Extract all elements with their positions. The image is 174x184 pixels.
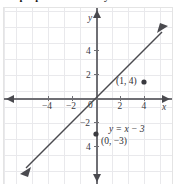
equation-label: y = x − 3: [109, 125, 145, 135]
line-y-equals-x-minus-3: [26, 32, 162, 168]
figure-root: Sample points shown if y = x − 3: [0, 0, 174, 184]
line-arrow-upper-right: [157, 23, 168, 33]
point-marker-0-neg3: [93, 131, 98, 136]
graph-panel: −4 −2 0 2 4 4 2 −2 4 y x (1: [3, 7, 173, 184]
point-label-1-4: (1, 4): [116, 77, 137, 87]
point-marker-1-4: [141, 79, 146, 84]
figure-caption: Sample points shown if y = x − 3: [0, 0, 174, 3]
point-label-0-neg3: (0, −3): [101, 137, 127, 147]
plot-line-layer: [4, 8, 172, 184]
line-arrow-lower-left: [20, 167, 31, 177]
